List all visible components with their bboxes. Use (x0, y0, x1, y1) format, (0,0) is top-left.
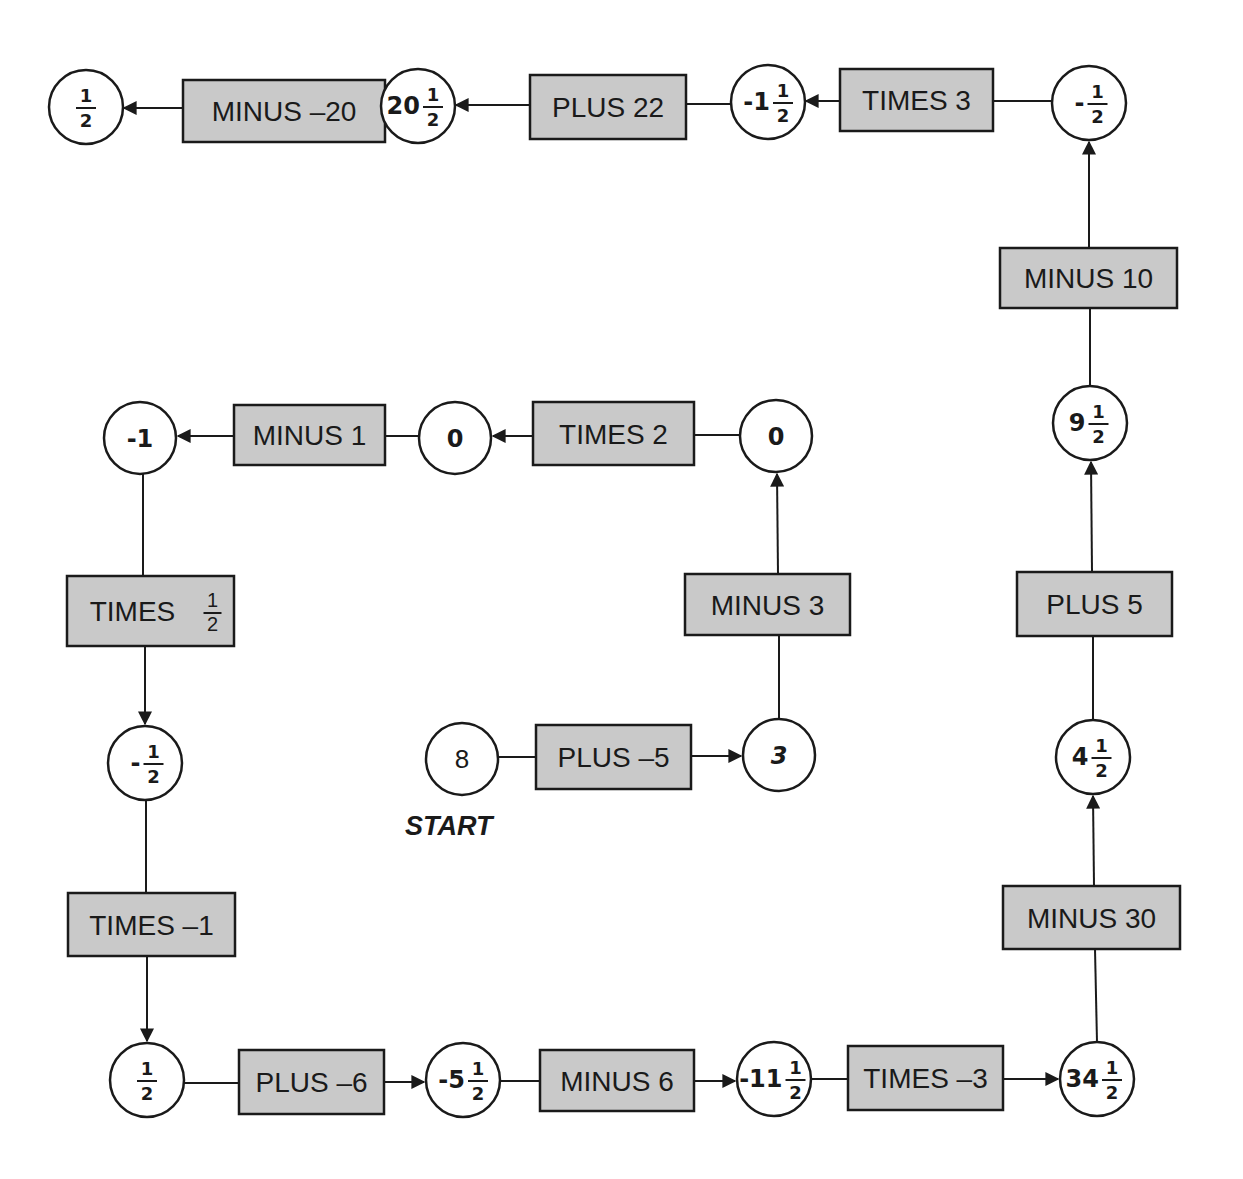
value-node: -12 (1052, 66, 1126, 140)
operation-label: MINUS 3 (711, 590, 825, 621)
operation-box: MINUS 30 (1003, 886, 1180, 949)
node-value: 3 (771, 742, 788, 770)
node-whole-part: - (131, 749, 141, 777)
node-whole-part: 20 (387, 92, 420, 120)
node-value: -1 (127, 425, 154, 453)
edge-minus30-to-4half (1093, 796, 1094, 886)
operation-box: PLUS 5 (1017, 572, 1172, 636)
operation-label: TIMES 2 (559, 419, 668, 450)
start-label: START (405, 811, 495, 841)
value-node: 912 (1053, 386, 1127, 460)
operation-label: PLUS –6 (255, 1067, 367, 1098)
edge-34half-to-minus30 (1095, 949, 1097, 1042)
node-denominator: 2 (777, 105, 790, 126)
operation-label: MINUS 30 (1027, 903, 1156, 934)
value-node: 412 (1056, 720, 1130, 794)
operation-box: MINUS 1 (234, 405, 385, 465)
node-denominator: 2 (789, 1082, 802, 1103)
value-node: -112 (731, 65, 805, 139)
node-whole-part: -11 (739, 1065, 782, 1093)
operation-label: MINUS 1 (253, 420, 367, 451)
node-denominator: 2 (472, 1083, 485, 1104)
node-denominator: 2 (1106, 1082, 1119, 1103)
node-numerator: 1 (777, 80, 790, 101)
value-node: -1 (104, 402, 176, 474)
node-numerator: 1 (147, 741, 160, 762)
node-whole-part: 4 (1072, 743, 1089, 771)
node-numerator: 1 (789, 1057, 802, 1078)
operation-label: TIMES 3 (862, 85, 971, 116)
operation-box: MINUS 6 (540, 1050, 694, 1111)
operation-box: PLUS 22 (530, 75, 686, 139)
node-whole-part: - (1075, 89, 1085, 117)
operation-label: TIMES –1 (89, 910, 213, 941)
node-numerator: 1 (1106, 1057, 1119, 1078)
value-node: 3412 (1060, 1042, 1134, 1116)
node-value: 0 (447, 425, 464, 453)
operation-box: PLUS –6 (239, 1050, 384, 1114)
number-chain-diagram: PLUS –5MINUS 3TIMES 2MINUS 1TIMES12TIMES… (0, 0, 1243, 1179)
node-numerator: 1 (1091, 81, 1104, 102)
node-denominator: 2 (1095, 760, 1108, 781)
value-node: 8 (426, 723, 498, 795)
node-whole-part: -1 (743, 88, 770, 116)
node-denominator: 2 (80, 110, 93, 131)
operation-box: TIMES –3 (848, 1046, 1003, 1110)
operation-label: PLUS –5 (557, 742, 669, 773)
node-numerator: 1 (1095, 735, 1108, 756)
node-value: 8 (455, 744, 469, 774)
node-denominator: 2 (427, 109, 440, 130)
node-numerator: 1 (80, 85, 93, 106)
operation-box: MINUS 10 (1000, 248, 1177, 308)
node-whole-part: -5 (438, 1066, 465, 1094)
node-denominator: 2 (1091, 106, 1104, 127)
value-node: -512 (426, 1043, 500, 1117)
node-numerator: 1 (1092, 401, 1105, 422)
value-node: 3 (743, 719, 815, 791)
operation-label: TIMES (90, 596, 176, 627)
value-node: 0 (419, 402, 491, 474)
operation-boxes: PLUS –5MINUS 3TIMES 2MINUS 1TIMES12TIMES… (67, 69, 1180, 1114)
edge-minus3-to-0a (777, 474, 778, 574)
operation-label: MINUS 6 (560, 1066, 674, 1097)
node-value: 0 (768, 423, 785, 451)
value-node: -12 (108, 726, 182, 800)
value-node: 12 (110, 1043, 184, 1117)
operation-box: TIMES12 (67, 576, 234, 646)
operation-box: MINUS –20 (183, 80, 385, 142)
operation-box: TIMES –1 (68, 893, 235, 956)
operation-box: TIMES 3 (840, 69, 993, 131)
node-numerator: 1 (141, 1058, 154, 1079)
node-whole-part: 34 (1066, 1065, 1099, 1093)
operation-box: MINUS 3 (685, 574, 850, 635)
node-whole-part: 9 (1069, 409, 1086, 437)
fraction-numerator: 1 (207, 589, 218, 611)
value-node: 0 (740, 400, 812, 472)
node-denominator: 2 (147, 766, 160, 787)
operation-label: MINUS –20 (212, 96, 357, 127)
operation-label: PLUS 22 (552, 92, 664, 123)
operation-box: PLUS –5 (536, 725, 691, 789)
edge-plus5-to-9half (1091, 462, 1092, 572)
edges (124, 101, 1097, 1083)
node-denominator: 2 (141, 1083, 154, 1104)
value-node: 12 (49, 70, 123, 144)
operation-label: TIMES –3 (863, 1063, 987, 1094)
operation-box: TIMES 2 (533, 402, 694, 465)
operation-label: MINUS 10 (1024, 263, 1153, 294)
operation-label: PLUS 5 (1046, 589, 1143, 620)
value-node: -1112 (737, 1042, 811, 1116)
value-node: 2012 (381, 69, 455, 143)
node-denominator: 2 (1092, 426, 1105, 447)
node-numerator: 1 (427, 84, 440, 105)
fraction-denominator: 2 (207, 613, 218, 635)
node-numerator: 1 (472, 1058, 485, 1079)
